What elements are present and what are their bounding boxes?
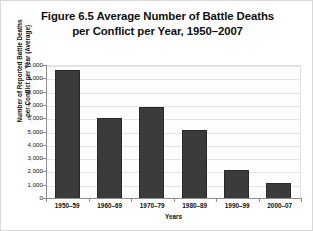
x-axis-title: Years [46,213,301,220]
x-axis-tick-label: 1960–69 [89,202,132,209]
bar-slot [131,66,173,199]
bar [182,130,207,199]
bar-slot [88,66,130,199]
y-axis-tick-label: 3,000 [9,155,43,161]
y-axis-tick-label: 2,000 [9,168,43,174]
bar [224,170,249,199]
x-axis-tick-label: 1970–79 [131,202,174,209]
y-axis-tick-label: 4,000 [9,142,43,148]
x-axis-tick-label: 1990–99 [216,202,259,209]
y-axis-tick-label: 10,000 [9,62,43,68]
y-axis-tick-label: 9,000 [9,75,43,81]
chart-title: Figure 6.5 Average Number of Battle Deat… [9,9,306,39]
x-axis-tick-mark [301,199,302,202]
figure-container: Figure 6.5 Average Number of Battle Deat… [0,0,313,231]
bar [97,118,122,199]
x-axis-tick-label: 1950–59 [46,202,89,209]
y-axis-tick-label: 1,000 [9,182,43,188]
y-axis-tick-label: 7,000 [9,102,43,108]
x-axis-tick-labels: 1950–591960–691970–791980–891990–992000–… [46,202,301,209]
plot-area [46,65,301,198]
y-axis-tick-label: 0 [9,195,43,201]
bar [139,107,164,199]
bar [55,70,80,199]
y-axis-tick-labels: 01,0002,0003,0004,0005,0006,0007,0008,00… [9,65,43,199]
bar-slot [46,66,88,199]
x-axis-tick-label: 2000–07 [259,202,302,209]
bar-slot [173,66,215,199]
bar-series [46,66,300,199]
chart-title-line-2: per Conflict per Year, 1950–2007 [9,24,306,39]
y-axis-tick-label: 6,000 [9,115,43,121]
y-axis-line [46,65,47,199]
x-axis-tick-label: 1980–89 [174,202,217,209]
y-axis-tick-label: 8,000 [9,89,43,95]
bar [266,183,291,199]
chart-title-line-1: Figure 6.5 Average Number of Battle Deat… [9,9,306,24]
y-axis-tick-label: 5,000 [9,129,43,135]
bar-slot [258,66,300,199]
bar-slot [215,66,257,199]
